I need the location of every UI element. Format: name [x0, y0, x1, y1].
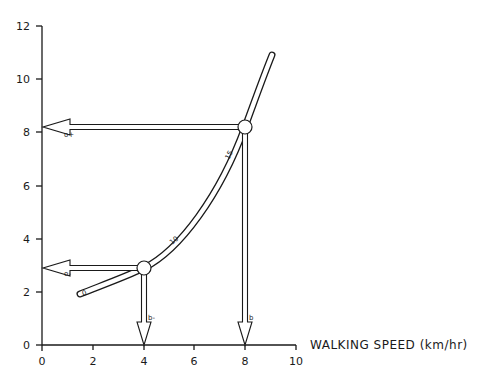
x-tick-label: 4 — [141, 355, 148, 368]
arrow-label-b: b — [249, 314, 254, 322]
arrow-label-o-plus: o+ — [64, 131, 74, 139]
arrow-down-left — [137, 268, 151, 345]
x-tick-label: 8 — [242, 355, 249, 368]
y-tick-label: 12 — [16, 20, 30, 33]
arrow-label-b-minus: b- — [148, 314, 155, 322]
y-tick-label: 10 — [16, 73, 30, 86]
point-marker-8 — [238, 120, 252, 134]
y-tick-label: 6 — [23, 180, 30, 193]
x-tick-labels: 0 2 4 6 8 10 — [39, 355, 304, 368]
y-tick-label: 2 — [23, 286, 30, 299]
x-axis — [42, 345, 296, 351]
arrow-label-o-minus: o- — [64, 270, 71, 278]
x-tick-label: 2 — [90, 355, 97, 368]
y-axis — [36, 26, 42, 345]
point-marker-4 — [137, 261, 151, 275]
y-tick-label: 0 — [23, 339, 30, 352]
arrow-down-right — [238, 127, 252, 345]
x-tick-label: 10 — [289, 355, 303, 368]
x-axis-title: WALKING SPEED (km/hr) — [310, 338, 468, 352]
x-tick-label: 6 — [191, 355, 198, 368]
y-tick-labels: 12 10 8 6 4 2 0 — [16, 20, 30, 352]
x-tick-label: 0 — [39, 355, 46, 368]
y-tick-label: 8 — [23, 126, 30, 139]
chart: 12 10 8 6 4 2 0 0 2 4 6 8 10 WALKING SPE… — [0, 0, 482, 379]
y-tick-label: 4 — [23, 233, 30, 246]
